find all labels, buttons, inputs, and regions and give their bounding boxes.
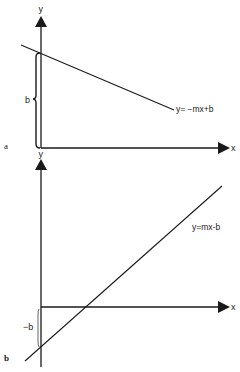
panel-a-label: a: [4, 141, 8, 151]
panel-a: y x y= −mx+b b a: [4, 4, 236, 154]
panel-a-y-axis-arrow-icon: [35, 16, 47, 27]
panel-a-equation: y= −mx+b: [176, 104, 214, 114]
panel-a-y-label: y: [39, 4, 44, 14]
panel-a-intercept-brace: [33, 53, 40, 148]
panel-a-x-label: x: [231, 143, 236, 153]
panel-b-y-label: y: [39, 149, 44, 159]
panel-a-function-line: [21, 45, 174, 110]
linear-equation-diagram: y x y= −mx+b b a y x y=mx-b −b b: [0, 0, 240, 372]
panel-b-label: b: [4, 353, 9, 363]
panel-b-x-axis-arrow-icon: [218, 301, 230, 313]
panel-b-function-line: [25, 186, 222, 361]
panel-b-intercept-label: −b: [23, 322, 33, 332]
panel-b-equation: y=mx-b: [192, 222, 220, 232]
panel-a-intercept-label: b: [25, 95, 30, 105]
panel-a-x-axis-arrow-icon: [218, 142, 230, 154]
panel-b-y-axis-arrow-icon: [35, 159, 47, 170]
panel-b-intercept-bracket: [38, 309, 39, 347]
panel-b: y x y=mx-b −b b: [4, 149, 236, 367]
panel-b-x-label: x: [231, 302, 236, 312]
